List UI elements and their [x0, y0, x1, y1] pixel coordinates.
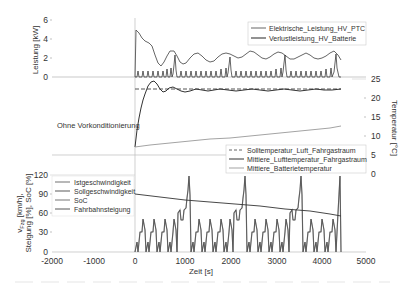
legend-item-soc: SoC [74, 197, 88, 204]
bottom-ytick: 30 [39, 227, 49, 237]
bottom-ylabel-line2: Steigung [%], SoC [%] [24, 173, 33, 252]
temp-ytick: 5 [371, 150, 376, 160]
legend-item-target-temp: Solltemperatur_Luft_Fahrgastraum [247, 147, 356, 155]
top-ytick: 0 [43, 72, 48, 82]
x-tick: 3000 [268, 256, 287, 266]
legend-item-road-grade: Fahrbahnsteigung [74, 206, 131, 214]
bottom-ytick: 90 [39, 189, 49, 199]
legend-item-battery-loss: Verlustleistung_HV_Batterie [269, 35, 356, 43]
series-battery-temp [135, 126, 341, 147]
series-soc [135, 194, 341, 216]
temp-ytick: 10 [371, 131, 381, 141]
x-tick: 2000 [222, 256, 241, 266]
temp-ytick: 15 [371, 112, 381, 122]
middle-legend: Solltemperatur_Luft_Fahrgastraum Mittier… [226, 145, 367, 173]
legend-item-cabin-air-temp: Mittiere_Lufttemperatur_Fahrgastraum [247, 156, 367, 164]
bottom-legend: Istgeschwindigkeit Sollgeschwindigkeit S… [52, 176, 135, 216]
x-axis-label: Zeit [s] [189, 267, 213, 276]
bottom-panel: 120 90 60 30 0 vFzg [km/h], Steigung [%]… [15, 170, 376, 276]
legend-item-actual-speed: Istgeschwindigkeit [74, 179, 131, 187]
top-ytick: 6 [43, 15, 48, 25]
series-actual-speed [135, 176, 341, 252]
series-target-speed [135, 176, 341, 252]
x-tick: -2000 [41, 256, 63, 266]
x-tick: 0 [133, 256, 138, 266]
top-panel: 6 4 2 0 Leistung [kW] Elektrische_Leistu… [31, 15, 366, 252]
legend-item-target-speed: Sollgeschwindigkeit [74, 188, 135, 196]
temp-ytick: 0 [371, 169, 376, 179]
legend-item-ptc: Elektrische_Leistung_HV_PTC [269, 25, 365, 33]
top-legend: Elektrische_Leistung_HV_PTC Verlustleist… [248, 22, 366, 45]
bottom-ytick: 120 [34, 170, 48, 180]
middle-panel: 25 20 15 10 5 0 Temperatur [°C] Ohne Vor… [52, 74, 399, 179]
x-tick: 5000 [357, 256, 376, 266]
temp-ytick: 25 [371, 74, 381, 84]
legend-item-battery-temp: Mittiere_Batterietemperatur [247, 165, 332, 173]
annotation-no-preconditioning: Ohne Vorkonditionierung [57, 121, 140, 130]
chart-figure: 6 4 2 0 Leistung [kW] Elektrische_Leistu… [0, 0, 406, 285]
x-tick: 4000 [313, 256, 332, 266]
x-tick: 1000 [176, 256, 195, 266]
temp-ytick: 20 [371, 93, 381, 103]
top-ylabel: Leistung [kW] [31, 26, 40, 74]
x-tick: -1000 [83, 256, 105, 266]
top-ytick: 2 [43, 53, 48, 63]
top-ytick: 4 [43, 34, 48, 44]
bottom-ytick: 60 [39, 208, 49, 218]
temp-ylabel: Temperatur [°C] [390, 100, 399, 156]
